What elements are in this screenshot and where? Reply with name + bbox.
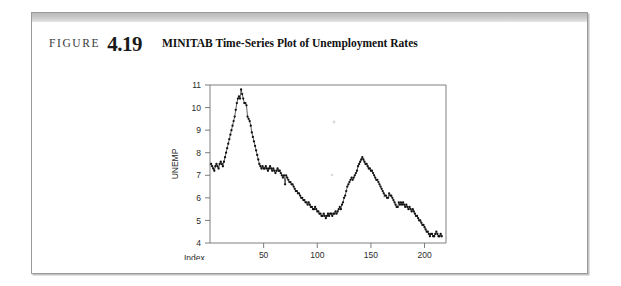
series-point — [227, 143, 229, 145]
series-point — [423, 226, 425, 228]
series-point — [254, 145, 256, 147]
data-series-unemp — [210, 88, 443, 237]
series-point — [397, 206, 399, 208]
series-point — [365, 163, 367, 165]
series-point — [285, 174, 287, 176]
series-point — [250, 124, 252, 126]
series-point — [298, 192, 300, 194]
series-point — [349, 179, 351, 181]
series-point — [293, 185, 295, 187]
series-point — [264, 167, 266, 169]
series-point — [392, 199, 394, 201]
series-point — [220, 161, 222, 163]
series-point — [439, 233, 441, 235]
series-point — [269, 165, 271, 167]
series-point — [242, 97, 244, 99]
series-point — [231, 124, 233, 126]
header-band — [32, 13, 587, 22]
figure-number: 4.19 — [107, 34, 142, 55]
series-point — [334, 210, 336, 212]
series-point — [433, 235, 435, 237]
series-point — [424, 228, 426, 230]
series-point — [282, 176, 284, 178]
figure-title: MINITAB Time-Series Plot of Unemployment… — [162, 37, 418, 49]
series-point — [429, 235, 431, 237]
series-point — [360, 158, 362, 160]
paper-speck — [331, 174, 333, 176]
series-point — [348, 181, 350, 183]
y-axis-label: UNEMP — [170, 148, 180, 179]
series-point — [355, 172, 357, 174]
series-point — [258, 163, 260, 165]
series-point — [260, 167, 262, 169]
series-point — [373, 174, 375, 176]
series-point — [253, 140, 255, 142]
series-point — [256, 154, 258, 156]
series-point — [402, 201, 404, 203]
series-point — [405, 203, 407, 205]
series-point — [441, 235, 443, 237]
series-point — [221, 163, 223, 165]
series-point — [223, 161, 225, 163]
series-point — [354, 174, 356, 176]
series-point — [362, 158, 364, 160]
series-point — [438, 235, 440, 237]
series-point — [286, 176, 288, 178]
series-point — [411, 210, 413, 212]
series-point — [356, 170, 358, 172]
series-point — [338, 208, 340, 210]
x-tick-label: 150 — [364, 250, 378, 260]
series-point — [240, 88, 242, 90]
series-point — [428, 233, 430, 235]
series-point — [385, 194, 387, 196]
y-tick-label: 11 — [192, 80, 201, 90]
series-point — [301, 197, 303, 199]
series-point — [271, 170, 273, 172]
series-point — [270, 167, 272, 169]
series-point — [244, 102, 246, 104]
series-point — [325, 217, 327, 219]
series-point — [398, 201, 400, 203]
series-point — [279, 170, 281, 172]
series-point — [399, 203, 401, 205]
series-point — [367, 165, 369, 167]
series-point — [377, 181, 379, 183]
series-point — [328, 215, 330, 217]
series-point — [239, 97, 241, 99]
series-point — [382, 190, 384, 192]
series-point — [372, 172, 374, 174]
series-point — [339, 206, 341, 208]
series-point — [291, 183, 293, 185]
series-point — [257, 158, 259, 160]
series-point — [413, 210, 415, 212]
series-point — [379, 185, 381, 187]
series-point — [344, 194, 346, 196]
series-point — [306, 203, 308, 205]
series-point — [234, 115, 236, 117]
series-point — [251, 131, 253, 133]
series-point — [324, 215, 326, 217]
series-point — [299, 194, 301, 196]
series-point — [361, 156, 363, 158]
series-point — [226, 147, 228, 149]
series-point — [241, 93, 243, 95]
series-point — [321, 215, 323, 217]
series-point — [238, 95, 240, 97]
series-point — [345, 190, 347, 192]
series-point — [376, 179, 378, 181]
x-axis: 50100150200 — [259, 243, 432, 260]
series-point — [273, 170, 275, 172]
series-point — [427, 231, 429, 233]
series-point — [347, 183, 349, 185]
series-point — [219, 163, 221, 165]
series-point — [422, 224, 424, 226]
series-point — [414, 213, 416, 215]
series-point — [296, 190, 298, 192]
y-tick-label: 9 — [196, 125, 201, 135]
series-point — [357, 165, 359, 167]
series-point — [404, 206, 406, 208]
series-point — [305, 201, 307, 203]
series-point — [337, 210, 339, 212]
series-point — [268, 167, 270, 169]
series-point — [249, 120, 251, 122]
